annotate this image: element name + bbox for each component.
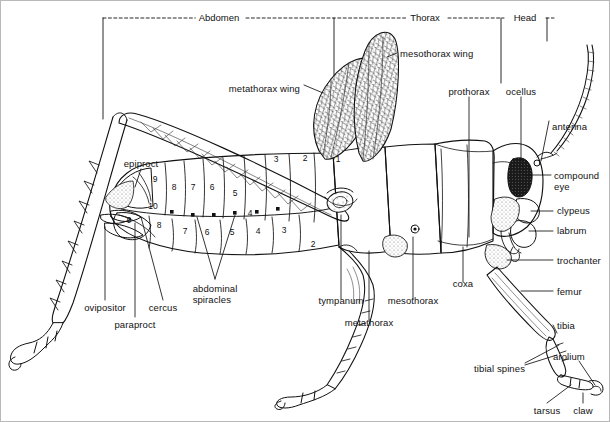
label-claw: claw: [573, 405, 592, 416]
segment-number: 3: [282, 225, 287, 235]
segment-number: 7: [183, 226, 188, 236]
segment-number: 8: [172, 182, 177, 192]
segment-number: 3: [274, 154, 279, 164]
label-labrum: labrum: [557, 225, 587, 236]
anatomy-illustration: [1, 1, 610, 422]
label-paraproct: paraproct: [114, 319, 155, 330]
label-mesothorax: mesothorax: [388, 295, 439, 306]
label-arolium: arolium: [553, 351, 585, 362]
segment-number: 1: [336, 154, 341, 164]
segment-number: 6: [210, 182, 215, 192]
region-label-abdomen: Abdomen: [196, 12, 243, 23]
segment-number: 2: [311, 239, 316, 249]
label-prothorax: prothorax: [448, 86, 489, 97]
segment-number: 6: [205, 227, 210, 237]
label-tibia: tibia: [557, 320, 575, 331]
label-coxa: coxa: [453, 278, 473, 289]
label-femur: femur: [557, 286, 582, 297]
label-tibial-spines: tibial spines: [474, 363, 525, 374]
label-trochanter: trochanter: [557, 255, 601, 266]
segment-number: 7: [191, 182, 196, 192]
grasshopper-anatomy-figure: Abdomen Thorax Head metathorax wing meso…: [0, 0, 610, 422]
label-ovipositor: ovipositor: [84, 302, 126, 313]
segment-number: 5: [230, 227, 235, 237]
label-metathorax: metathorax: [345, 317, 394, 328]
label-metathorax-wing: metathorax wing: [229, 83, 300, 94]
segment-number: 8: [157, 220, 162, 230]
segment-number: 4: [248, 208, 253, 218]
label-ocellus: ocellus: [506, 86, 536, 97]
label-abdominal-spiracles: abdominal spiracles: [193, 283, 238, 305]
label-tympanum: tympanum: [318, 295, 363, 306]
label-antenna: antenna: [552, 121, 587, 132]
region-label-head: Head: [511, 12, 540, 23]
segment-number: 5: [233, 188, 238, 198]
region-label-thorax: Thorax: [407, 12, 443, 23]
segment-number: 10: [148, 201, 157, 211]
label-epiproct: epiproct: [124, 158, 159, 169]
label-compound-eye: compound eye: [554, 170, 599, 192]
label-cercus: cercus: [149, 302, 178, 313]
label-tarsus: tarsus: [534, 405, 560, 416]
label-clypeus: clypeus: [557, 205, 590, 216]
segment-number: 9: [127, 215, 132, 225]
segment-number: 2: [303, 153, 308, 163]
segment-number: 9: [153, 174, 158, 184]
label-mesothorax-wing: mesothorax wing: [400, 48, 473, 59]
segment-number: 4: [256, 226, 261, 236]
